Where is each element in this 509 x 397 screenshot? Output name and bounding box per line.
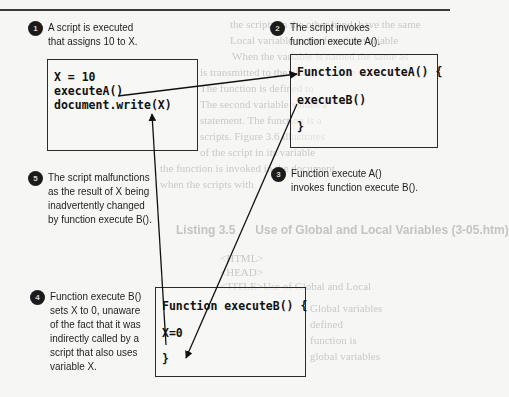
arrow-call-executeA: [118, 74, 297, 96]
arrow-call-executeB: [186, 104, 297, 358]
arrow-x-changed: [152, 114, 166, 345]
